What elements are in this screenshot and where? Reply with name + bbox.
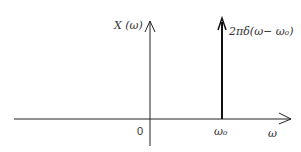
impulse-position-label: ω₀ — [214, 126, 227, 137]
x-axis-label: ω — [268, 128, 277, 139]
impulse-label: 2πδ(ω− ω₀) — [229, 26, 294, 37]
origin-label: 0 — [137, 126, 143, 137]
spectrum-plot — [0, 0, 301, 152]
y-axis-label: X (ω) — [114, 20, 143, 31]
